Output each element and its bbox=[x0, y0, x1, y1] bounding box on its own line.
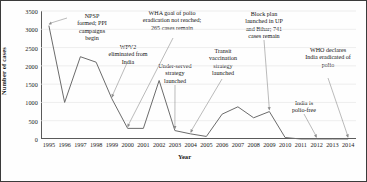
leader-line-polio-free bbox=[304, 114, 317, 137]
leader-arrowhead-npsp bbox=[49, 21, 52, 24]
leader-line-who-declares bbox=[328, 78, 348, 137]
annotation-leader-lines bbox=[49, 18, 349, 138]
chart-overlay bbox=[1, 1, 367, 182]
data-line-polio-cases bbox=[49, 26, 348, 139]
leader-arrowhead-block-plan bbox=[268, 107, 271, 111]
leader-line-wpv2 bbox=[112, 63, 127, 97]
leader-line-npsp bbox=[49, 18, 67, 24]
leader-line-block-plan bbox=[264, 40, 269, 110]
leader-arrowhead-who-declares bbox=[346, 134, 349, 138]
gridlines bbox=[41, 11, 356, 121]
leader-line-transit bbox=[191, 79, 222, 132]
leader-line-wha bbox=[128, 38, 173, 126]
chart-figure: Number of cases 050010001500200025003000… bbox=[0, 0, 367, 182]
